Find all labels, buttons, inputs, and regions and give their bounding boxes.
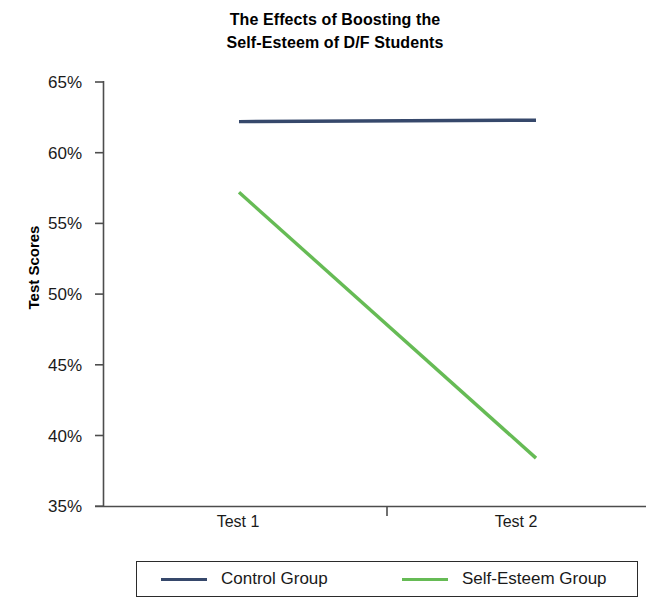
legend-label: Self-Esteem Group: [462, 569, 607, 589]
data-series-group: [239, 120, 536, 458]
legend-color-swatch: [402, 578, 448, 581]
y-axis-ticks: [95, 82, 104, 506]
x-axis-tick-labels: Test 1 Test 2: [94, 512, 646, 538]
legend-label: Control Group: [221, 569, 328, 589]
series-line: [239, 192, 536, 458]
x-tick-label: Test 1: [168, 512, 308, 532]
chart-legend: Control Group Self-Esteem Group: [136, 561, 638, 597]
legend-entry-self-esteem-group: Self-Esteem Group: [402, 562, 607, 596]
series-line: [239, 120, 536, 121]
legend-entry-control-group: Control Group: [161, 562, 328, 596]
plot-area: [0, 0, 670, 597]
line-chart: The Effects of Boosting the Self-Esteem …: [0, 0, 670, 597]
x-tick-label: Test 2: [446, 512, 586, 532]
legend-color-swatch: [161, 578, 207, 581]
